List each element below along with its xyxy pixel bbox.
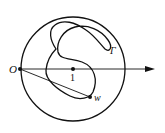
w-point [88, 95, 92, 99]
segment-o-w [20, 69, 90, 97]
axis-arrow-icon [145, 66, 155, 72]
origin-label: O [9, 63, 17, 75]
curve-gamma [46, 22, 111, 99]
origin-point [18, 67, 22, 71]
diagram-canvas: O 1 w Γ [0, 0, 165, 133]
center-point [71, 67, 75, 71]
gamma-label: Γ [109, 45, 116, 56]
center-label: 1 [70, 72, 75, 83]
w-label: w [94, 92, 101, 103]
